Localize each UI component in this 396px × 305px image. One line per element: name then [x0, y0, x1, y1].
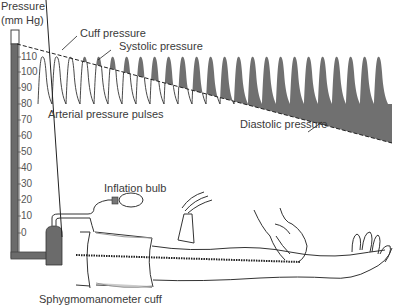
- manometer-reservoir: [46, 0, 62, 265]
- stethoscope: [178, 192, 212, 243]
- inflation-bulb-label: Inflation bulb: [104, 182, 166, 194]
- cuff-pressure-label: Cuff pressure: [80, 27, 146, 39]
- cuff-label: Sphygmomanometer cuff: [39, 293, 162, 305]
- inflation-bulb: [112, 193, 143, 207]
- brachial-artery: [76, 255, 300, 262]
- systolic-pressure-label: Systolic pressure: [119, 40, 203, 52]
- diastolic-pressure-label: Diastolic pressure: [240, 118, 327, 130]
- manometer-column: [11, 30, 49, 259]
- arterial-pulse-waveform: [38, 57, 392, 143]
- cuff: [87, 232, 153, 288]
- cuff-pressure-leader: [62, 36, 77, 50]
- systolic-pressure-leader: [98, 50, 111, 60]
- arterial-pulses-label: Arterial pressure pulses: [48, 108, 164, 120]
